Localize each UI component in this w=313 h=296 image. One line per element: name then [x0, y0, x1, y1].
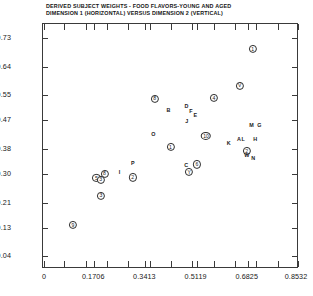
x-tick-major — [298, 261, 299, 267]
x-tick-minor — [278, 261, 279, 267]
chart-title-line2: DIMENSION 1 (HORIZONTAL) VERSUS DIMENSIO… — [46, 10, 304, 17]
y-axis-tick-label: 0.30 — [0, 169, 11, 178]
data-point-marker: J — [185, 120, 188, 125]
x-axis-tick-label: 0.8532 — [285, 272, 308, 281]
x-tick-major — [248, 24, 249, 30]
x-tick-major — [298, 24, 299, 30]
y-axis-tick-label: 0.38 — [0, 143, 11, 152]
x-tick-major — [94, 24, 95, 30]
data-point-marker: G — [257, 123, 261, 128]
y-axis-tick-label: 0.73 — [0, 33, 11, 42]
data-point-marker: 1 — [248, 45, 256, 53]
x-tick-minor — [107, 24, 108, 30]
x-tick-minor — [214, 261, 215, 267]
data-point-marker: 2 — [129, 173, 137, 181]
data-point-marker: V — [236, 82, 244, 90]
x-tick-minor — [235, 24, 236, 30]
plot-area: 1V48BDFEJMGO10ALHK12WNC6YPI285339 — [42, 23, 298, 268]
y-axis-tick-label: 0.47 — [0, 115, 11, 124]
y-tick — [43, 95, 48, 96]
data-point-marker: P — [131, 161, 135, 166]
y-tick — [292, 67, 297, 68]
data-point-marker: 1 — [166, 143, 174, 151]
data-point-marker: M — [249, 123, 254, 128]
x-axis-tick-label: 0.3413 — [133, 272, 156, 281]
data-point-marker: B — [167, 108, 171, 113]
chart-title: DERIVED SUBJECT WEIGHTS - FOOD FLAVORS-Y… — [46, 3, 304, 17]
scatter-plot-figure: DERIVED SUBJECT WEIGHTS - FOOD FLAVORS-Y… — [0, 0, 313, 296]
data-point-marker: Y — [185, 168, 193, 176]
data-point-marker: 3 — [97, 192, 105, 200]
data-point-marker: F — [189, 109, 192, 114]
x-axis-tick-label: 0 — [42, 272, 46, 281]
x-tick-minor — [171, 261, 172, 267]
y-tick — [292, 203, 297, 204]
data-point-marker: O — [151, 133, 155, 138]
x-tick-minor — [235, 261, 236, 267]
data-point-marker: I — [119, 170, 121, 175]
y-axis-tick-label: 0.55 — [0, 90, 11, 99]
x-tick-minor — [107, 261, 108, 267]
y-axis-tick-label: 0.13 — [0, 222, 11, 231]
data-point-marker: H — [253, 138, 257, 143]
y-tick — [43, 228, 48, 229]
x-tick-major — [145, 24, 146, 30]
y-tick — [292, 95, 297, 96]
x-tick-major — [44, 261, 45, 267]
y-tick — [43, 120, 48, 121]
x-axis-tick-label: 0.1706 — [82, 272, 105, 281]
data-point-marker: K — [227, 141, 231, 146]
x-tick-major — [197, 24, 198, 30]
y-tick — [43, 174, 48, 175]
y-tick — [292, 228, 297, 229]
x-tick-major — [248, 261, 249, 267]
x-tick-minor — [86, 261, 87, 267]
x-axis-tick-label: 0.5119 — [185, 272, 207, 281]
x-tick-minor — [192, 24, 193, 30]
x-tick-minor — [171, 24, 172, 30]
data-point-marker: L — [241, 137, 244, 142]
data-point-marker: 9 — [69, 221, 77, 229]
data-point-marker: W — [244, 153, 249, 158]
y-axis-tick-label: 0.21 — [0, 197, 11, 206]
y-axis-tick-label: 0.04 — [0, 251, 11, 260]
x-tick-major — [44, 24, 45, 30]
data-point-marker: 6 — [193, 160, 201, 168]
x-tick-minor — [64, 261, 65, 267]
y-tick — [43, 256, 48, 257]
x-tick-minor — [214, 24, 215, 30]
data-point-marker: 3 — [97, 175, 105, 183]
x-tick-major — [197, 261, 198, 267]
chart-title-line1: DERIVED SUBJECT WEIGHTS - FOOD FLAVORS-Y… — [46, 3, 304, 10]
data-point-marker: E — [194, 114, 198, 119]
x-tick-minor — [192, 261, 193, 267]
y-tick — [43, 203, 48, 204]
y-tick — [292, 38, 297, 39]
y-tick — [292, 120, 297, 121]
x-tick-major — [145, 261, 146, 267]
x-tick-minor — [86, 24, 87, 30]
y-axis-tick-label: 0.64 — [0, 61, 11, 70]
data-point-marker: A — [237, 137, 241, 142]
data-point-marker: D — [184, 104, 188, 109]
x-tick-minor — [128, 261, 129, 267]
x-tick-minor — [256, 261, 257, 267]
data-point-marker: 8 — [151, 95, 159, 103]
data-point-marker: 10 — [201, 132, 212, 140]
y-tick — [43, 149, 48, 150]
y-tick — [43, 38, 48, 39]
x-axis-tick-label: 0.6825 — [235, 272, 258, 281]
y-tick — [292, 174, 297, 175]
y-tick — [292, 149, 297, 150]
x-tick-minor — [150, 261, 151, 267]
x-tick-minor — [64, 24, 65, 30]
x-tick-minor — [256, 24, 257, 30]
x-tick-minor — [128, 24, 129, 30]
y-tick — [292, 256, 297, 257]
x-tick-minor — [150, 24, 151, 30]
data-point-marker: N — [251, 157, 255, 162]
x-tick-major — [94, 261, 95, 267]
y-tick — [43, 67, 48, 68]
data-point-marker: 4 — [210, 94, 218, 102]
x-tick-minor — [278, 24, 279, 30]
